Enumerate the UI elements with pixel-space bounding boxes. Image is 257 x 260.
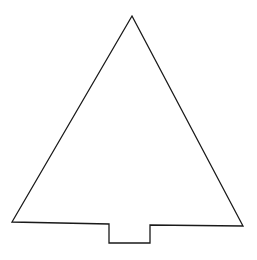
drawing-canvas [0, 0, 257, 260]
tree-outline-shape [12, 16, 243, 243]
tree-outline-figure [0, 0, 257, 260]
